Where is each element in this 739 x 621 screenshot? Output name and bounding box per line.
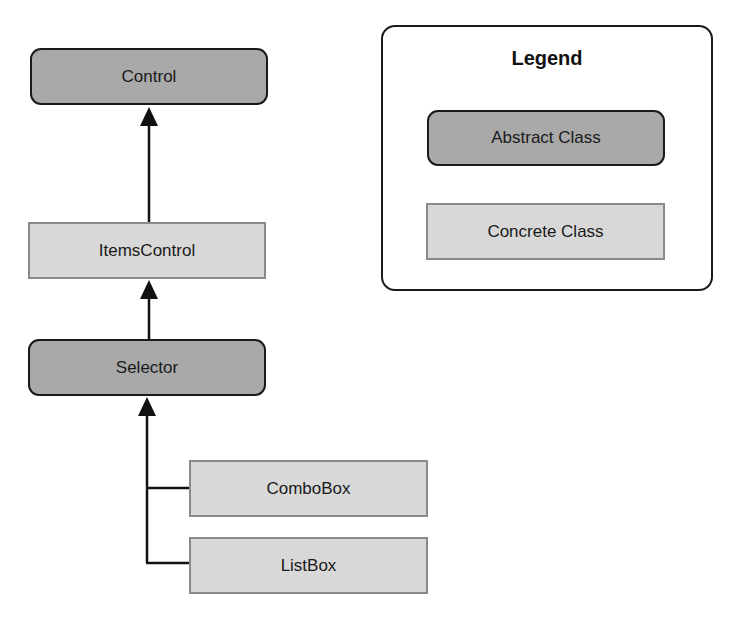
node-label: ComboBox (266, 479, 350, 499)
node-itemscontrol: ItemsControl (28, 222, 266, 279)
legend-title: Legend (383, 47, 711, 70)
legend-label: Abstract Class (491, 128, 601, 148)
node-selector: Selector (28, 339, 266, 396)
arrowhead-icon (140, 107, 158, 126)
arrowhead-icon (140, 280, 158, 299)
legend-panel: Legend Abstract Class Concrete Class (381, 25, 713, 291)
node-label: ItemsControl (99, 241, 195, 261)
legend-concrete-swatch: Concrete Class (426, 203, 665, 260)
legend-label: Concrete Class (487, 222, 603, 242)
node-control: Control (30, 48, 268, 105)
arrowhead-icon (138, 397, 156, 416)
node-label: ListBox (281, 556, 337, 576)
node-label: Control (122, 67, 177, 87)
legend-abstract-swatch: Abstract Class (427, 110, 665, 166)
node-listbox: ListBox (189, 537, 428, 594)
node-label: Selector (116, 358, 178, 378)
node-combobox: ComboBox (189, 460, 428, 517)
